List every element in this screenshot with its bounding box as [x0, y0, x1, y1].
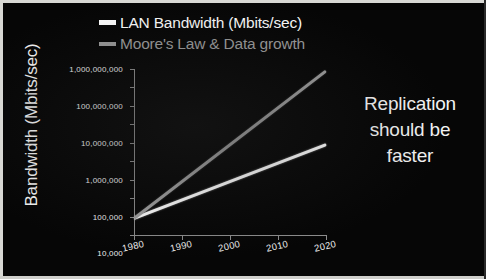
y-axis-tick-label: 10,000	[97, 249, 123, 258]
y-axis-tick-label: 10,000,000	[81, 138, 123, 147]
x-axis-tick-label: 1980	[121, 238, 145, 254]
y-axis-tick: 1,000	[130, 180, 134, 181]
chart-plate: LAN Bandwidth (Mbits/sec) Moore's Law & …	[3, 3, 484, 276]
x-axis-tick-label: 2020	[313, 238, 337, 254]
legend-swatch-line-icon	[99, 42, 116, 46]
y-axis-tick-label: 1,000,000,000	[69, 65, 123, 74]
y-axis-tick: 1,000,000	[130, 124, 134, 125]
x-axis-tick-label: 1990	[169, 238, 193, 254]
legend-item-moores-law: Moore's Law & Data growth	[99, 33, 359, 54]
y-axis-tick-label: 100,000	[93, 212, 123, 221]
annotation-line-1: Replication	[340, 91, 480, 117]
y-axis-tick: 100,000,000	[130, 87, 134, 88]
y-axis-tick: 100	[130, 198, 134, 199]
y-axis-tick-label: 100,000,000	[76, 101, 123, 110]
series-line-lan-bandwidth	[133, 143, 326, 220]
x-axis-tick-label: 2000	[217, 238, 241, 254]
y-axis-tick: 100,000	[130, 143, 134, 144]
series-line-moores-law	[133, 69, 327, 219]
x-axis-tick-label: 2010	[265, 238, 289, 254]
slide-canvas: LAN Bandwidth (Mbits/sec) Moore's Law & …	[0, 0, 486, 279]
y-axis-line	[134, 69, 135, 235]
annotation-line-2: should be	[340, 117, 480, 143]
legend-item-lan-bandwidth: LAN Bandwidth (Mbits/sec)	[99, 12, 359, 33]
y-axis-tick: 1,000,000,000	[130, 69, 134, 70]
legend-item-label: Moore's Law & Data growth	[120, 35, 305, 53]
plot-area: 1,000,000,000100,000,00010,000,0001,000,…	[134, 69, 326, 235]
legend-item-label: LAN Bandwidth (Mbits/sec)	[120, 14, 302, 32]
legend-swatch-line-icon	[99, 20, 116, 25]
y-axis-tick-label: 1,000,000	[86, 175, 123, 184]
y-axis-title: Bandwidth (Mbits/sec)	[22, 10, 42, 240]
y-axis-tick: 10,000	[130, 161, 134, 162]
annotation-line-3: faster	[340, 143, 480, 169]
chart-legend: LAN Bandwidth (Mbits/sec) Moore's Law & …	[99, 12, 359, 54]
annotation-replication-faster: Replication should be faster	[340, 91, 480, 169]
y-axis-tick: 10,000,000	[130, 106, 134, 107]
